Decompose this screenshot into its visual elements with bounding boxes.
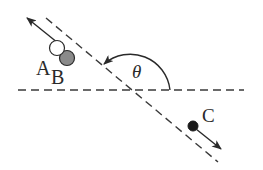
ball-a [50, 41, 65, 56]
label-c: C [202, 105, 215, 126]
label-b: B [51, 66, 64, 88]
label-a: A [36, 57, 51, 79]
angle-theta-label: θ [132, 61, 141, 82]
diagram-canvas: θ A B C [0, 0, 263, 170]
collision-diagram: θ A B C [0, 0, 263, 170]
